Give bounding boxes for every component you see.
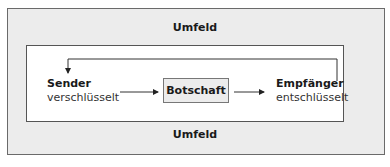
sender-title: Sender — [47, 77, 91, 90]
message-box: Botschaft — [163, 78, 229, 103]
receiver-subtitle: entschlüsselt — [276, 91, 348, 104]
receiver-title: Empfänger — [276, 77, 344, 90]
sender-subtitle: verschlüsselt — [47, 91, 119, 104]
